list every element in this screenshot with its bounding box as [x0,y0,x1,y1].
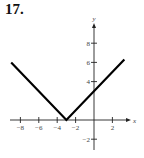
y-tick-label: −2 [83,136,91,144]
y-tick-label: 8 [87,40,91,48]
x-axis-arrow-icon [126,118,131,122]
y-tick-label: 6 [87,59,91,67]
y-axis-label: y [92,15,97,23]
x-tick-label: −2 [72,124,80,132]
x-tick-label: −6 [35,124,43,132]
x-tick-label: −4 [53,124,61,132]
x-axis-label: x [132,117,137,125]
ticks: −8−6−4−22864−2 [17,40,115,144]
y-tick-label: 4 [87,78,91,86]
series-line [11,60,124,120]
x-tick-label: −8 [17,124,25,132]
y-axis-arrow-icon [92,23,96,28]
graph-plot: xy −8−6−4−22864−2 [0,0,144,158]
absolute-value-curve [11,60,124,120]
x-tick-label: 2 [111,124,115,132]
